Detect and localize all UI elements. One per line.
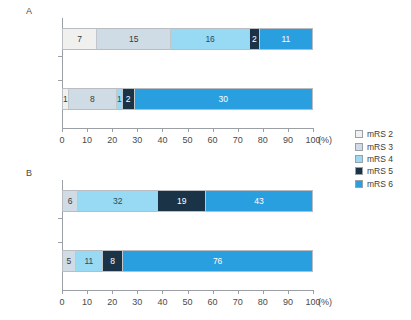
legend-item[interactable]: mRS 2 — [355, 128, 411, 140]
bar-segment-value: 7 — [77, 35, 82, 44]
x-axis-tick-label: 60 — [200, 135, 226, 145]
bar-segment-value: 19 — [177, 197, 186, 206]
legend-swatch-icon — [355, 167, 363, 175]
x-axis-tick-label: 20 — [99, 135, 125, 145]
x-axis-tick-label: 70 — [225, 135, 251, 145]
bar-segment-value: 2 — [126, 95, 131, 104]
x-axis-tick-label: 20 — [99, 297, 125, 307]
x-axis-tick — [263, 128, 264, 132]
x-axis-tick — [137, 128, 138, 132]
legend-swatch-icon — [355, 130, 363, 138]
bar-segment-value: 8 — [90, 95, 95, 104]
x-axis-tick-label: 40 — [149, 135, 175, 145]
bar-segment-value: 2 — [252, 35, 257, 44]
x-axis-tick — [188, 128, 189, 132]
legend-item[interactable]: mRS 5 — [355, 165, 411, 177]
stacked-bar: 71516211 — [62, 28, 313, 50]
chart-panel-a: A 0102030405060708090100(%)減圧開頭71516211保… — [0, 6, 345, 154]
legend-label: mRS 2 — [367, 129, 393, 139]
legend-label: mRS 4 — [367, 154, 393, 164]
x-axis-tick-label: 90 — [275, 135, 301, 145]
x-axis-tick — [162, 290, 163, 294]
x-axis-unit-label: (%) — [318, 135, 332, 145]
x-axis-tick-label: 70 — [225, 297, 251, 307]
x-axis-unit-label: (%) — [318, 297, 332, 307]
legend-label: mRS 5 — [367, 166, 393, 176]
x-axis-tick-label: 90 — [275, 297, 301, 307]
x-axis-tick — [162, 128, 163, 132]
bar-segment: 11 — [259, 28, 313, 50]
bar-segment: 2 — [249, 28, 259, 50]
x-axis-tick-label: 30 — [124, 135, 150, 145]
x-axis-tick — [213, 290, 214, 294]
bar-segment: 16 — [170, 28, 249, 50]
x-axis-tick-label: 0 — [49, 297, 75, 307]
bar-segment: 5 — [62, 250, 75, 272]
bar-segment: 43 — [205, 190, 313, 212]
legend-label: mRS 3 — [367, 142, 393, 152]
x-axis-tick — [238, 128, 239, 132]
x-axis-tick — [263, 290, 264, 294]
legend-item[interactable]: mRS 4 — [355, 153, 411, 165]
bar-segment-value: 11 — [281, 35, 290, 44]
bar-segment: 8 — [102, 250, 122, 272]
legend-swatch-icon — [355, 180, 363, 188]
x-axis-tick — [313, 290, 314, 294]
bar-segment-value: 5 — [66, 257, 71, 266]
stacked-bar: 181230 — [62, 88, 313, 110]
bar-segment-value: 43 — [254, 197, 263, 206]
y-axis-tick — [58, 242, 62, 243]
legend-swatch-icon — [355, 155, 363, 163]
x-axis-tick-label: 40 — [149, 297, 175, 307]
x-axis-tick — [87, 128, 88, 132]
bar-segment-value: 6 — [68, 197, 73, 206]
bar-segment-value: 76 — [213, 257, 222, 266]
panel-b-title: B — [26, 168, 33, 178]
x-axis-tick — [238, 290, 239, 294]
bar-segment: 19 — [157, 190, 205, 212]
x-axis-tick-label: 80 — [250, 297, 276, 307]
bar-segment: 7 — [62, 28, 96, 50]
x-axis-tick — [137, 290, 138, 294]
bar-segment: 2 — [122, 88, 134, 110]
legend-swatch-icon — [355, 143, 363, 151]
y-axis-tick — [58, 56, 62, 57]
bar-segment-value: 8 — [110, 257, 115, 266]
panel-a-plot-area: 0102030405060708090100(%)減圧開頭71516211保存的… — [0, 18, 345, 136]
x-axis-tick — [288, 128, 289, 132]
x-axis-tick — [112, 128, 113, 132]
x-axis-tick — [313, 128, 314, 132]
bar-segment-value: 15 — [129, 35, 138, 44]
x-axis-tick-label: 10 — [74, 135, 100, 145]
stacked-bar: 6321943 — [62, 190, 313, 212]
panel-b-plot-area: 0102030405060708090100(%)減圧開頭6321943保存的5… — [0, 180, 345, 298]
x-axis-tick-label: 10 — [74, 297, 100, 307]
legend-item[interactable]: mRS 3 — [355, 140, 411, 152]
bar-segment: 32 — [77, 190, 157, 212]
x-axis-tick-label: 30 — [124, 297, 150, 307]
bar-segment-value: 30 — [219, 95, 228, 104]
bar-segment: 11 — [75, 250, 103, 272]
x-axis-tick-label: 50 — [175, 297, 201, 307]
x-axis-tick — [288, 290, 289, 294]
x-axis-tick — [188, 290, 189, 294]
stacked-bar: 511876 — [62, 250, 313, 272]
y-axis-tick — [58, 218, 62, 219]
x-axis-tick-label: 60 — [200, 297, 226, 307]
bar-segment-value: 16 — [205, 35, 214, 44]
bar-segment: 6 — [62, 190, 77, 212]
x-axis-tick — [213, 128, 214, 132]
x-axis-tick-label: 80 — [250, 135, 276, 145]
x-axis-tick — [62, 128, 63, 132]
legend-item[interactable]: mRS 6 — [355, 178, 411, 190]
bar-segment: 15 — [96, 28, 170, 50]
x-axis-tick — [62, 290, 63, 294]
x-axis-tick-label: 0 — [49, 135, 75, 145]
bar-segment-value: 11 — [84, 257, 93, 266]
chart-panel-b: B 0102030405060708090100(%)減圧開頭6321943保存… — [0, 168, 345, 318]
x-axis-tick — [112, 290, 113, 294]
bar-segment: 30 — [134, 88, 313, 110]
panel-a-title: A — [26, 6, 33, 16]
y-axis-tick — [58, 80, 62, 81]
bar-segment-value: 32 — [113, 197, 122, 206]
